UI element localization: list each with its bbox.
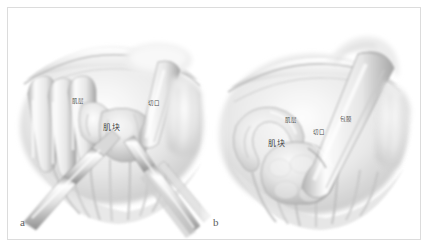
panel-b-label-capsule: 包膜 (340, 117, 352, 123)
panel-a-label-myometrium: 肌层 (72, 99, 84, 105)
figure-canvas: a 肌层 肌块 切口 b 肌层 切口 肌块 包膜 (8, 8, 420, 239)
panel-b-label-mass: 肌块 (268, 140, 285, 148)
panel-a-label-mass: 肌块 (103, 124, 120, 132)
panel-b-label-myometrium: 肌层 (285, 118, 297, 124)
figure-root: a 肌层 肌块 切口 b 肌层 切口 肌块 包膜 (0, 0, 430, 249)
panel-a-letter: a (20, 216, 25, 228)
panel-a-label-incision: 切口 (148, 101, 160, 107)
panel-b-label-incision: 切口 (313, 130, 325, 136)
panel-b-letter: b (213, 216, 219, 228)
panel-b: b (208, 8, 414, 239)
